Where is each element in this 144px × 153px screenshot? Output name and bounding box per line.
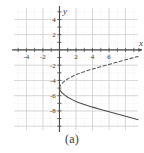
x-tick-label: 4 (91, 53, 95, 61)
x-axis-tick-labels: -4-2246 (23, 53, 111, 61)
x-tick-label: 6 (107, 53, 111, 61)
figure-caption: (a) (0, 132, 144, 147)
x-tick-label: -4 (23, 53, 29, 61)
figure-panel: -4-2246 42-2-4-6-8 y x (a) (0, 0, 144, 153)
curve-upper-branch (59, 56, 138, 88)
y-tick-label: 4 (52, 16, 56, 24)
y-tick-label: -4 (50, 77, 56, 85)
major-gridlines (14, 8, 138, 130)
plot-area: -4-2246 42-2-4-6-8 y x (0, 0, 144, 134)
y-tick-label: 2 (52, 31, 56, 39)
y-tick-label: -6 (50, 92, 56, 100)
x-tick-label: 2 (74, 53, 78, 61)
x-axis-label: x (138, 38, 143, 48)
x-tick-label: -2 (40, 53, 46, 61)
y-tick-label: -8 (50, 107, 56, 115)
y-tick-label: -2 (50, 62, 56, 70)
y-axis-tick-labels: 42-2-4-6-8 (50, 16, 56, 116)
coordinate-plane: -4-2246 42-2-4-6-8 y x (0, 0, 144, 134)
y-axis-label: y (62, 6, 67, 16)
curve-lower-branch (59, 88, 138, 120)
axis-lines (12, 6, 142, 132)
